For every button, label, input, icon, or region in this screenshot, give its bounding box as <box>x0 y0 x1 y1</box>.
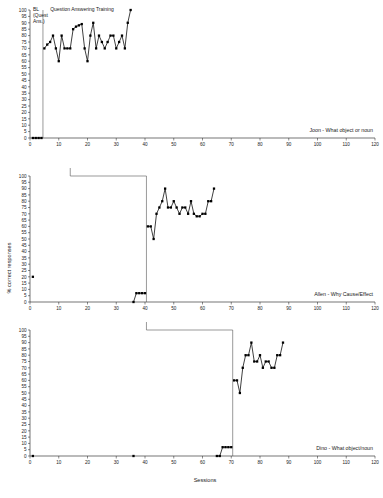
data-point-marker <box>118 41 120 43</box>
x-tick-label: 40 <box>142 460 148 465</box>
data-point-marker <box>55 47 57 49</box>
data-point-marker <box>75 25 77 27</box>
y-tick-label: 5 <box>24 293 27 298</box>
data-point-marker <box>196 215 198 217</box>
data-point-marker <box>66 47 68 49</box>
x-tick-label: 110 <box>343 142 351 147</box>
data-point-marker <box>86 60 88 62</box>
phase-label: Question Answering Training <box>50 6 114 12</box>
x-tick-label: 100 <box>314 460 322 465</box>
y-tick-label: 35 <box>21 410 27 415</box>
phase-label: Ans.) <box>33 18 45 24</box>
data-point-marker <box>204 213 206 215</box>
x-tick-label: 50 <box>171 142 177 147</box>
data-point-marker <box>282 341 284 343</box>
data-point-marker <box>224 446 226 448</box>
y-tick-label: 50 <box>21 237 27 242</box>
data-point-marker <box>109 34 111 36</box>
y-tick-label: 30 <box>21 97 27 102</box>
data-point-marker <box>60 34 62 36</box>
x-tick-label: 0 <box>29 460 32 465</box>
y-tick-label: 30 <box>21 262 27 267</box>
y-tick-label: 75 <box>21 40 27 45</box>
x-tick-label: 10 <box>56 306 62 311</box>
y-tick-label: 35 <box>21 256 27 261</box>
x-tick-label: 50 <box>171 460 177 465</box>
panel-joon: 0510152025303540455055606570758085909510… <box>0 0 383 152</box>
data-point-marker <box>83 47 85 49</box>
y-tick-label: 0 <box>24 300 27 305</box>
data-point-marker <box>164 187 166 189</box>
panel-allen-plot: 0510152025303540455055606570758085909510… <box>0 166 383 316</box>
x-tick-label: 60 <box>200 142 206 147</box>
y-tick-label: 55 <box>21 384 27 389</box>
data-point-marker <box>210 200 212 202</box>
data-point-marker <box>187 213 189 215</box>
data-point-marker <box>253 360 255 362</box>
x-tick-label: 50 <box>171 306 177 311</box>
phase-connector-bracket <box>70 168 146 176</box>
data-point-marker <box>127 22 129 24</box>
data-point-marker <box>144 292 146 294</box>
data-point-marker <box>190 200 192 202</box>
data-point-marker <box>81 23 83 25</box>
data-point-marker <box>95 47 97 49</box>
y-tick-label: 90 <box>21 21 27 26</box>
x-tick-label: 30 <box>114 460 120 465</box>
data-point-marker <box>265 360 267 362</box>
y-tick-label: 100 <box>19 8 27 13</box>
data-point-marker <box>155 213 157 215</box>
y-tick-label: 45 <box>21 397 27 402</box>
data-point-marker <box>92 22 94 24</box>
data-point-marker <box>112 34 114 36</box>
data-point-marker <box>267 360 269 362</box>
data-point-marker <box>101 41 103 43</box>
data-point-marker <box>121 34 123 36</box>
x-tick-label: 110 <box>343 460 351 465</box>
x-tick-label: 0 <box>29 142 32 147</box>
y-tick-label: 90 <box>21 340 27 345</box>
data-point-marker <box>32 455 34 457</box>
data-point-marker <box>270 367 272 369</box>
x-tick-label: 90 <box>286 142 292 147</box>
panel-dino-caption: Dino - What object/noun <box>316 445 373 451</box>
panel-allen-caption: Allen - Why Cause/Effect <box>314 291 373 297</box>
x-tick-label: 100 <box>314 142 322 147</box>
data-series-line <box>44 10 130 61</box>
data-point-marker <box>52 34 54 36</box>
data-point-marker <box>201 213 203 215</box>
data-point-marker <box>135 292 137 294</box>
data-point-marker <box>207 200 209 202</box>
y-tick-label: 85 <box>21 27 27 32</box>
data-point-marker <box>161 200 163 202</box>
x-tick-label: 10 <box>56 142 62 147</box>
data-point-marker <box>227 446 229 448</box>
y-tick-label: 50 <box>21 391 27 396</box>
data-point-marker <box>132 301 134 303</box>
data-point-marker <box>124 47 126 49</box>
x-tick-label: 120 <box>371 306 379 311</box>
x-tick-label: 90 <box>286 460 292 465</box>
x-tick-label: 100 <box>314 306 322 311</box>
x-tick-label: 40 <box>142 306 148 311</box>
data-series-line <box>134 293 146 302</box>
data-point-marker <box>58 60 60 62</box>
data-point-marker <box>40 137 42 139</box>
data-point-marker <box>247 354 249 356</box>
data-point-marker <box>35 137 37 139</box>
x-tick-label: 0 <box>29 306 32 311</box>
data-point-marker <box>242 367 244 369</box>
data-point-marker <box>141 292 143 294</box>
y-tick-label: 55 <box>21 65 27 70</box>
x-tick-label: 20 <box>85 306 91 311</box>
data-point-marker <box>37 137 39 139</box>
y-tick-label: 75 <box>21 205 27 210</box>
data-point-marker <box>152 238 154 240</box>
y-tick-label: 85 <box>21 347 27 352</box>
y-tick-label: 15 <box>21 117 27 122</box>
x-tick-label: 20 <box>85 142 91 147</box>
y-tick-label: 95 <box>21 180 27 185</box>
y-tick-label: 25 <box>21 268 27 273</box>
panel-joon-plot: 0510152025303540455055606570758085909510… <box>0 0 383 152</box>
y-tick-label: 20 <box>21 429 27 434</box>
